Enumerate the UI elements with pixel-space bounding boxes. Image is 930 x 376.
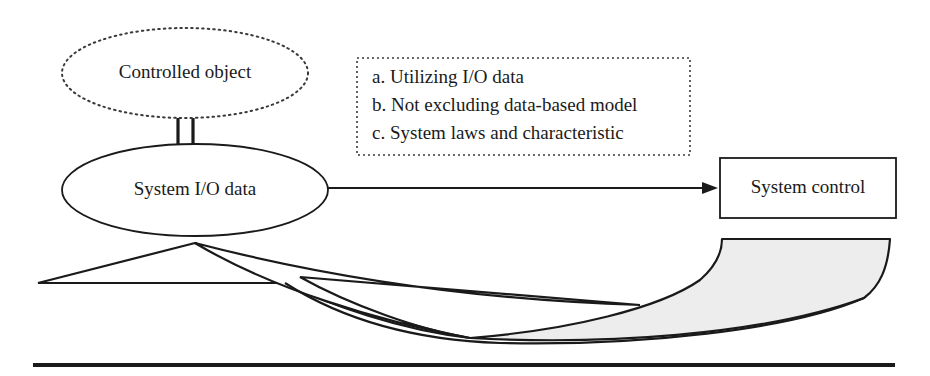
system-io-to-system-control-arrowhead	[702, 182, 718, 194]
controlled-object-label: Controlled object	[119, 61, 252, 82]
diagram-canvas: Controlled object System I/O data System…	[0, 0, 930, 376]
note-item-b: b. Not excluding data-based model	[372, 94, 637, 115]
system-control-label: System control	[751, 176, 866, 197]
note-item-a: a. Utilizing I/O data	[372, 66, 525, 87]
system-io-data-label: System I/O data	[134, 178, 257, 199]
ribbon-right-lobe	[470, 239, 890, 340]
note-item-c: c. System laws and characteristic	[372, 122, 624, 143]
diagram-svg: Controlled object System I/O data System…	[0, 0, 930, 376]
